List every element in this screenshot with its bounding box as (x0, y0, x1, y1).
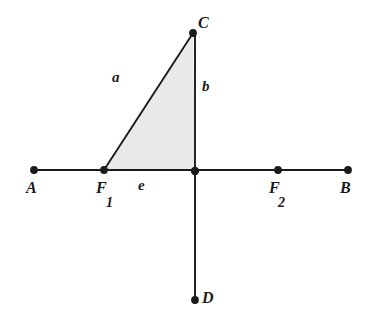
point-label-A: A (26, 180, 37, 196)
point-F2-dot (274, 166, 282, 174)
point-label-F2: F (269, 180, 280, 196)
point-origin-dot (191, 167, 199, 175)
point-F1-dot (100, 166, 108, 174)
point-B-dot (344, 166, 352, 174)
point-label-D: D (202, 290, 214, 306)
triangle-side-label-e: e (138, 178, 145, 193)
point-A-dot (30, 166, 38, 174)
point-label-F1: F (96, 180, 107, 196)
point-label-F1-subscript: 1 (106, 196, 113, 210)
triangle-side-label-a: a (112, 70, 120, 85)
triangle-side-label-b: b (202, 79, 210, 94)
point-label-C: C (198, 15, 209, 31)
point-C-dot (189, 29, 197, 37)
point-D-dot (191, 296, 199, 304)
geometry-figure: A F 1 F 2 B C D a b e (0, 0, 372, 327)
point-label-F2-subscript: 2 (278, 196, 285, 210)
diagram-canvas (0, 0, 372, 327)
point-label-B: B (340, 180, 351, 196)
